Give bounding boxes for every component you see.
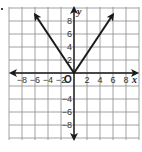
y-tick-label: 6 bbox=[67, 29, 72, 39]
x-tick-label: 8 bbox=[123, 75, 128, 85]
x-tick-label: 4 bbox=[97, 75, 102, 85]
origin-label: O bbox=[64, 74, 72, 85]
graph-ray bbox=[74, 15, 113, 74]
y-tick-label: −8 bbox=[62, 120, 72, 130]
y-axis-label: y bbox=[76, 6, 82, 17]
y-tick-label: −6 bbox=[62, 107, 72, 117]
x-axis-label: x bbox=[131, 74, 137, 85]
x-tick-label: 6 bbox=[110, 75, 115, 85]
x-tick-label: −4 bbox=[43, 75, 53, 85]
x-tick-label: −6 bbox=[30, 75, 40, 85]
bullet-mark bbox=[1, 8, 3, 10]
coordinate-plane: −8−6−4−224688642−4−6−8 x y O bbox=[0, 0, 142, 152]
y-tick-label: −4 bbox=[62, 94, 72, 104]
x-tick-label: 2 bbox=[84, 75, 89, 85]
x-tick-label: −8 bbox=[17, 75, 27, 85]
graph-vertex bbox=[73, 72, 75, 74]
y-tick-label: 8 bbox=[67, 16, 72, 26]
y-tick-label: 4 bbox=[67, 42, 72, 52]
